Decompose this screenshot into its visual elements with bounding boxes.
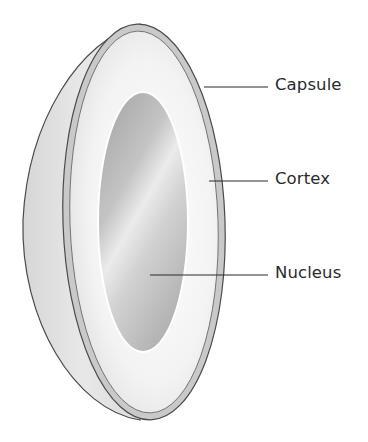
nucleus-region [99, 93, 187, 351]
cortex-label: Cortex [275, 171, 330, 188]
nucleus-label: Nucleus [275, 265, 341, 282]
capsule-label: Capsule [275, 77, 342, 94]
lens-diagram [0, 0, 368, 442]
